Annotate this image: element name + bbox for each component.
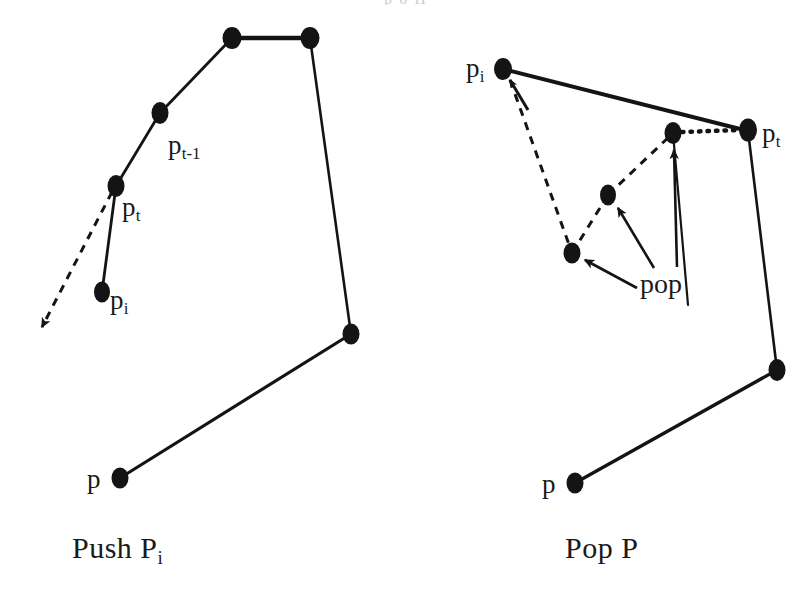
right-vertex-pi <box>494 58 512 80</box>
label-p-t-minus-1-sub: t-1 <box>182 144 201 163</box>
caption-push-sub: i <box>158 547 164 568</box>
label-p-t-sub: t <box>136 206 141 225</box>
left-vertex-top-right <box>301 27 320 49</box>
caption-push-text: Push P <box>72 531 158 564</box>
left-edge-bottomright-to-topright <box>310 38 351 334</box>
right-edge-pt-to-lowerright <box>748 131 777 370</box>
right-dashed-pi-to-low <box>510 80 572 253</box>
right-edge-pi-to-pt <box>503 69 748 131</box>
right-vertex-pt <box>739 119 757 142</box>
pop-arrow-to-middle-node <box>618 208 654 268</box>
left-edge-topleft-to-ptminus1 <box>160 38 232 113</box>
right-dotted-node673-to-pt <box>682 130 740 132</box>
right-vertex-lower-right <box>769 359 786 381</box>
label-p-right: p <box>542 471 556 498</box>
right-dashed-low-to-mid <box>572 195 608 253</box>
label-pop: pop <box>640 270 682 298</box>
right-vertex-popped-lower <box>564 243 581 264</box>
left-hull-edges <box>102 38 351 478</box>
left-vertex-pt-minus-1 <box>152 102 169 124</box>
left-vertex-p <box>112 468 129 489</box>
label-p-left: p <box>87 466 101 493</box>
caption-pop: Pop P <box>565 533 638 563</box>
label-p-t-right-sub: t <box>776 132 781 151</box>
label-p-i-right: pi <box>466 55 484 85</box>
left-push-dashed-arrow <box>42 192 112 327</box>
left-edge-pt-to-pi <box>102 186 116 292</box>
right-edge-lowerright-to-p <box>575 370 777 483</box>
left-vertex-pi <box>94 282 110 303</box>
caption-push: Push Pi <box>72 533 163 567</box>
label-p-t-base: p <box>122 192 136 222</box>
right-vertex-popped-mid <box>600 185 616 206</box>
left-edge-ptminus1-to-pt <box>116 113 160 186</box>
left-vertex-right-mid <box>343 324 360 345</box>
label-p-t-right: pt <box>762 120 780 150</box>
label-p-i-right-sub: i <box>480 67 485 86</box>
figure-root: p o H <box>0 0 812 607</box>
right-vertex-p <box>567 473 584 494</box>
right-arrow-to-pi <box>510 80 528 110</box>
label-p-t-minus-1-base: p <box>168 130 182 160</box>
label-p-i-left-base: p <box>110 285 124 315</box>
label-p-i-right-base: p <box>466 53 480 83</box>
label-p-t-right-base: p <box>762 118 776 148</box>
left-vertices <box>94 27 360 489</box>
left-edge-p-to-bottomright <box>120 334 351 478</box>
label-p-t: pt <box>122 194 140 224</box>
left-vertex-top-left <box>223 27 242 49</box>
label-p-t-minus-1: pt-1 <box>168 132 201 162</box>
label-p-i-left-sub: i <box>124 299 129 318</box>
right-dashed-mid-to-node673 <box>608 133 673 195</box>
label-p-i-left: pi <box>110 287 128 317</box>
left-panel-group <box>42 27 360 489</box>
right-vertex-popped-upper <box>665 122 682 144</box>
pop-arrow-to-lower-node <box>585 260 637 288</box>
